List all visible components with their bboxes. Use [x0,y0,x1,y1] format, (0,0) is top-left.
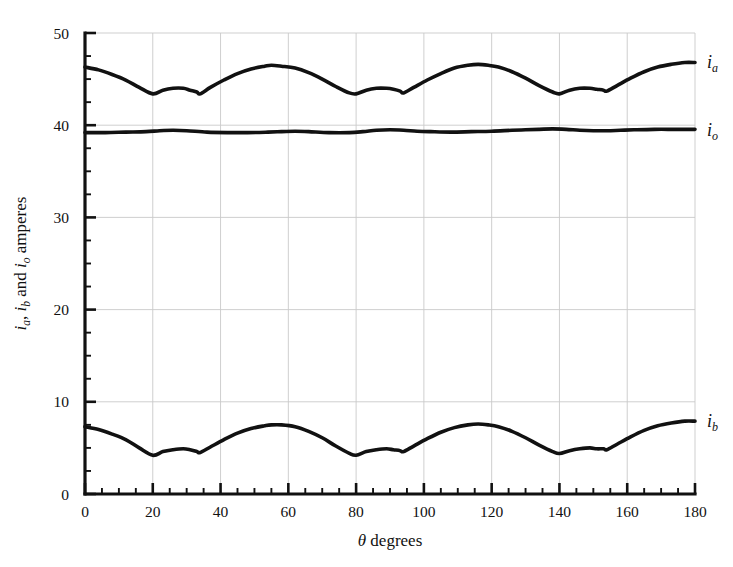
x-axis-title: θ degrees [358,531,423,550]
x-tick-label: 40 [213,503,229,520]
x-tick-label: 140 [548,503,572,520]
x-tick-label: 20 [145,503,161,520]
x-tick-label: 80 [348,503,364,520]
x-tick-label: 0 [81,503,89,520]
x-tick-label: 120 [480,503,504,520]
x-tick-label: 60 [281,503,297,520]
y-tick-label: 0 [61,486,69,503]
x-tick-label: 100 [412,503,436,520]
x-tick-label: 160 [616,503,640,520]
x-tick-label: 180 [683,503,707,520]
y-tick-label: 50 [54,25,70,42]
y-tick-label: 40 [54,117,70,134]
y-axis-title-text: ia, ib and io amperes [11,197,32,331]
y-tick-label: 30 [54,209,70,226]
chart-figure: 020406080100120140160180 01020304050 iai… [0,0,733,567]
y-tick-label: 20 [54,301,70,318]
x-axis-title-text: θ degrees [358,531,423,550]
line-chart: 020406080100120140160180 01020304050 iai… [0,0,733,567]
chart-background [0,0,733,567]
y-tick-label: 10 [54,393,70,410]
y-axis-title: ia, ib and io amperes [11,197,32,331]
